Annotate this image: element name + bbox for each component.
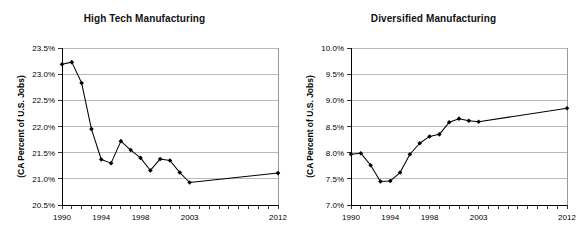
y-tick-label-23.5%: 23.5% bbox=[32, 44, 55, 53]
y-tick-label-10.0%: 10.0% bbox=[321, 44, 344, 53]
data-point-marker bbox=[276, 171, 281, 176]
chart-plot-high-tech: 20.5%21.0%21.5%22.0%22.5%23.0%23.5%19901… bbox=[0, 0, 289, 236]
y-tick-label-7.0%: 7.0% bbox=[326, 201, 344, 210]
y-tick-label-20.5%: 20.5% bbox=[32, 201, 55, 210]
chart-panel-diversified: Diversified Manufacturing 7.0%7.5%8.0%8.… bbox=[289, 0, 578, 236]
x-tick-label-2012: 2012 bbox=[269, 213, 287, 222]
data-point-marker bbox=[378, 179, 383, 184]
data-point-marker bbox=[467, 118, 472, 123]
y-axis-title: (CA Percent of U.S. Jobs) bbox=[16, 75, 26, 178]
chart-plot-diversified: 7.0%7.5%8.0%8.5%9.0%9.5%10.0%19901994199… bbox=[289, 0, 578, 236]
y-tick-label-9.0%: 9.0% bbox=[326, 96, 344, 105]
data-point-marker bbox=[79, 81, 84, 86]
figure-container: High Tech Manufacturing 20.5%21.0%21.5%2… bbox=[0, 0, 578, 236]
y-tick-label-22.5%: 22.5% bbox=[32, 96, 55, 105]
data-point-marker bbox=[70, 60, 75, 65]
x-tick-label-1994: 1994 bbox=[381, 213, 399, 222]
chart-panel-high-tech: High Tech Manufacturing 20.5%21.0%21.5%2… bbox=[0, 0, 289, 236]
data-point-marker bbox=[99, 157, 104, 162]
x-tick-label-2003: 2003 bbox=[470, 213, 488, 222]
x-tick-label-1994: 1994 bbox=[92, 213, 110, 222]
data-point-marker bbox=[60, 62, 65, 67]
x-tick-label-2012: 2012 bbox=[558, 213, 576, 222]
y-tick-label-21.0%: 21.0% bbox=[32, 175, 55, 184]
y-tick-label-9.5%: 9.5% bbox=[326, 70, 344, 79]
y-tick-label-23.0%: 23.0% bbox=[32, 70, 55, 79]
data-point-marker bbox=[565, 106, 570, 111]
y-tick-label-8.0%: 8.0% bbox=[326, 149, 344, 158]
x-tick-label-1990: 1990 bbox=[53, 213, 71, 222]
x-tick-label-1998: 1998 bbox=[132, 213, 150, 222]
x-tick-label-2003: 2003 bbox=[181, 213, 199, 222]
y-tick-label-7.5%: 7.5% bbox=[326, 175, 344, 184]
data-point-marker bbox=[109, 161, 114, 166]
data-point-marker bbox=[89, 127, 94, 132]
data-point-marker bbox=[476, 119, 481, 124]
x-tick-label-1990: 1990 bbox=[342, 213, 360, 222]
series-line bbox=[62, 62, 278, 182]
data-point-marker bbox=[457, 116, 462, 121]
y-axis-title: (CA Percent of U.S. Jobs) bbox=[305, 75, 315, 178]
x-tick-label-1998: 1998 bbox=[421, 213, 439, 222]
y-tick-label-22.0%: 22.0% bbox=[32, 123, 55, 132]
y-tick-label-21.5%: 21.5% bbox=[32, 149, 55, 158]
y-tick-label-8.5%: 8.5% bbox=[326, 123, 344, 132]
